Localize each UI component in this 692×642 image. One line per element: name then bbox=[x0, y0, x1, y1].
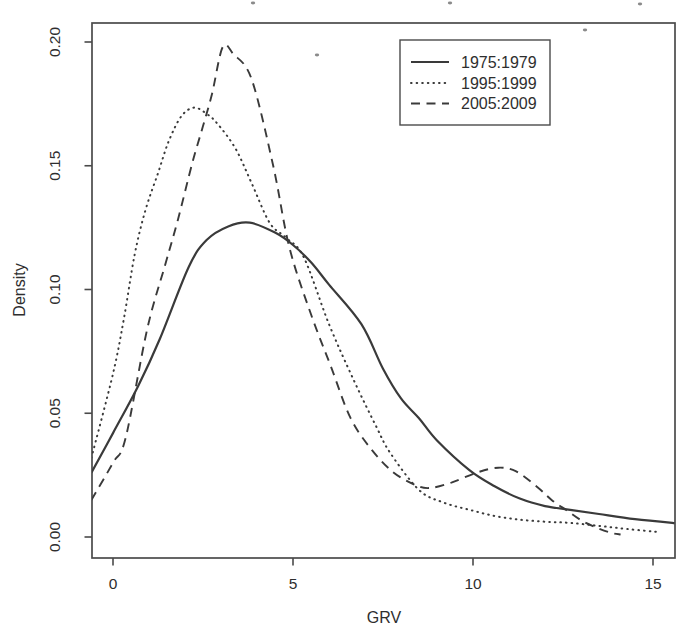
scan-speck bbox=[315, 54, 319, 57]
y-tick-label: 0.10 bbox=[46, 274, 63, 305]
scan-speck bbox=[638, 3, 642, 6]
y-tick-label: 0.15 bbox=[46, 151, 63, 181]
curve-solid-1975-1979 bbox=[91, 222, 674, 523]
legend-label-1975-1979: 1975:1979 bbox=[461, 54, 537, 71]
y-tick-label: 0.20 bbox=[46, 27, 63, 58]
x-tick-label: 0 bbox=[109, 575, 118, 592]
scan-speck bbox=[251, 2, 255, 5]
x-axis-title: GRV bbox=[367, 609, 402, 626]
curve-dotted-1995-1999 bbox=[91, 108, 660, 533]
x-tick-label: 10 bbox=[464, 575, 482, 592]
legend: 1975:1979 1995:1999 2005:2009 bbox=[400, 40, 550, 125]
scan-speck bbox=[583, 29, 587, 32]
density-plot-svg: 051015 0.000.050.100.150.20 GRV Density … bbox=[0, 0, 692, 642]
y-axis-ticks: 0.000.050.100.150.20 bbox=[46, 27, 92, 553]
x-tick-label: 5 bbox=[289, 575, 298, 592]
y-tick-label: 0.00 bbox=[46, 522, 63, 553]
legend-label-2005-2009: 2005:2009 bbox=[461, 95, 537, 112]
legend-label-1995-1999: 1995:1999 bbox=[461, 75, 537, 92]
scan-speck bbox=[448, 2, 452, 5]
x-tick-label: 15 bbox=[644, 575, 661, 592]
y-axis-title: Density bbox=[11, 263, 28, 316]
density-curves bbox=[91, 45, 674, 535]
density-plot-figure: 051015 0.000.050.100.150.20 GRV Density … bbox=[0, 0, 692, 642]
x-axis-ticks: 051015 bbox=[109, 558, 662, 592]
y-tick-label: 0.05 bbox=[46, 398, 63, 428]
